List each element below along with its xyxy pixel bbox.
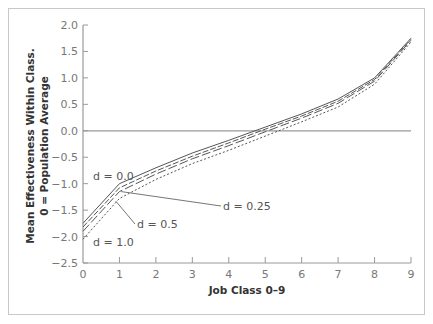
x-tick-label: 6 (298, 268, 305, 281)
label-d-0-25: d = 0.25 (223, 200, 271, 213)
x-tick-label: 8 (371, 268, 378, 281)
y-tick-label: 0.0 (61, 125, 79, 138)
leader-d-0-25 (121, 192, 221, 206)
y-tick-label: 2.0 (61, 19, 79, 32)
x-tick-label: 1 (116, 268, 123, 281)
x-tick-label: 3 (189, 268, 196, 281)
annotations: d = 0.0 d = 0.25 d = 0.5 d = 1.0 (93, 170, 271, 249)
label-d-0-0: d = 0.0 (93, 170, 134, 183)
label-d-1-0: d = 1.0 (93, 236, 134, 249)
label-d-0-5: d = 0.5 (137, 218, 178, 231)
x-tick-label: 9 (408, 268, 415, 281)
y-axis-title-line1: Mean Effectiveness Within Class. (24, 48, 36, 243)
x-tick-label: 2 (152, 268, 159, 281)
y-tick-label: −0.5 (51, 151, 78, 164)
y-axis-title-line2: 0 = Population Average (38, 76, 50, 216)
y-tick-label: −2.5 (51, 257, 78, 270)
x-tick-label: 7 (335, 268, 342, 281)
y-tick-label: −2.0 (51, 231, 78, 244)
x-tick-label: 0 (80, 268, 87, 281)
y-tick-label: 1.0 (61, 72, 79, 85)
y-tick-label: −1.5 (51, 204, 78, 217)
y-axis-title: Mean Effectiveness Within Class. 0 = Pop… (24, 48, 50, 243)
line-chart: 2.01.51.00.50.0−0.5−1.0−1.5−2.0−2.501234… (0, 0, 433, 324)
series-line-1 (83, 39, 411, 227)
y-tick-label: 1.5 (61, 45, 79, 58)
y-tick-label: 0.5 (61, 98, 79, 111)
x-axis-title: Job Class 0–9 (208, 284, 286, 296)
x-tick-label: 5 (262, 268, 269, 281)
y-tick-label: −1.0 (51, 178, 78, 191)
leader-d-0-5 (116, 201, 135, 224)
x-tick-label: 4 (225, 268, 232, 281)
